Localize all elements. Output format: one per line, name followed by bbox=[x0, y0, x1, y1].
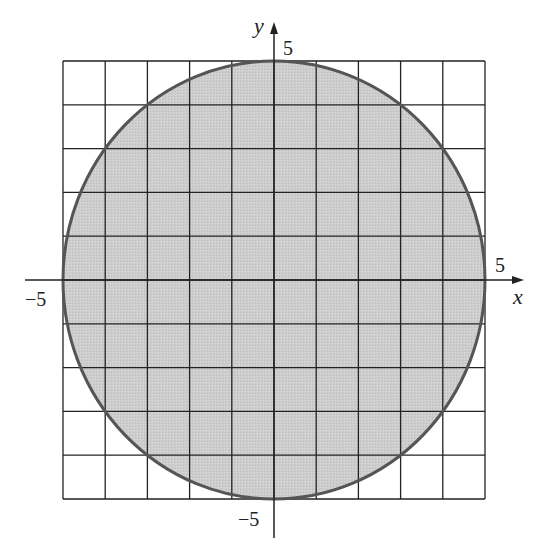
disk-grid-diagram: y 5 −5 5 x −5 bbox=[0, 0, 534, 558]
y-pos-tick-label: 5 bbox=[283, 37, 293, 59]
y-axis-arrow-icon bbox=[270, 22, 278, 34]
x-neg-tick-label: −5 bbox=[25, 288, 46, 310]
axes bbox=[25, 22, 524, 538]
y-axis-label: y bbox=[252, 13, 264, 38]
x-pos-tick-label: 5 bbox=[495, 254, 505, 276]
y-neg-tick-label: −5 bbox=[238, 508, 259, 530]
x-axis-label: x bbox=[512, 284, 523, 309]
x-axis-arrow-icon bbox=[512, 276, 524, 284]
